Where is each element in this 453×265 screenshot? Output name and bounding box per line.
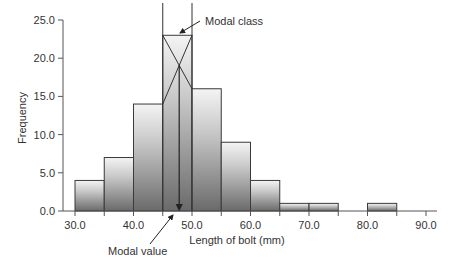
y-tick-label: 5.0 xyxy=(40,167,55,179)
y-tick-label: 15.0 xyxy=(34,90,55,102)
histogram-bar xyxy=(134,104,163,211)
x-axis-title: Length of bolt (mm) xyxy=(189,234,284,246)
histogram-bar xyxy=(192,89,221,211)
y-axis-title: Frequency xyxy=(16,92,28,144)
histogram-bar xyxy=(221,142,250,211)
histogram-bar xyxy=(104,158,133,211)
modal-class-label: Modal class xyxy=(205,15,264,27)
y-tick-label: 0.0 xyxy=(40,205,55,217)
x-tick-label: 80.0 xyxy=(357,219,378,231)
y-tick-label: 20.0 xyxy=(34,52,55,64)
x-tick-label: 50.0 xyxy=(181,219,202,231)
y-tick-label: 10.0 xyxy=(34,129,55,141)
modal-value-label: Modal value xyxy=(108,245,167,257)
histogram-bar xyxy=(251,180,280,211)
histogram-bar xyxy=(75,180,104,211)
y-tick-label: 25.0 xyxy=(34,14,55,26)
x-tick-label: 70.0 xyxy=(298,219,319,231)
x-tick-label: 90.0 xyxy=(415,219,436,231)
histogram-bar xyxy=(368,203,397,211)
x-tick-label: 40.0 xyxy=(123,219,144,231)
histogram-bars xyxy=(75,35,397,211)
x-tick-label: 30.0 xyxy=(64,219,85,231)
histogram-bar xyxy=(280,203,309,211)
x-tick-label: 60.0 xyxy=(240,219,261,231)
histogram-chart: 0.05.010.015.020.025.030.040.050.060.070… xyxy=(0,0,453,265)
histogram-bar xyxy=(309,203,338,211)
